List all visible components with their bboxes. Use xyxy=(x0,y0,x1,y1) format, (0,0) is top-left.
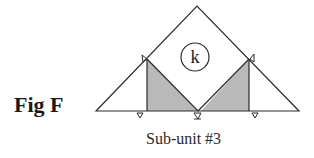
figure-caption: Sub-unit #3 xyxy=(146,130,221,148)
circle-label: k xyxy=(191,47,200,67)
